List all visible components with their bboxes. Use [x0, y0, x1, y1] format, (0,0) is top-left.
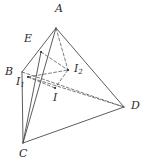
vertex-label-A: A: [55, 3, 63, 14]
edge-I1-I2: [28, 70, 68, 77]
vertex-label-D-text: D: [131, 99, 140, 112]
vertex-label-I1: I1: [16, 76, 25, 89]
point-marker-I1: [27, 76, 29, 78]
vertex-label-B: B: [5, 66, 13, 77]
edge-C-D: [23, 107, 124, 143]
vertex-label-D: D: [131, 100, 140, 111]
dashed-edge-group: [22, 28, 124, 107]
edge-E-C: [23, 52, 41, 143]
vertex-label-E: E: [24, 33, 32, 44]
point-marker-I2: [67, 69, 69, 71]
solid-edge-group: [22, 28, 124, 143]
vertex-label-C: C: [19, 148, 27, 159]
point-marker-I: [54, 87, 56, 89]
vertex-label-E-text: E: [24, 32, 32, 45]
vertex-label-I1-subscript: 1: [20, 81, 24, 89]
vertex-label-I-text: I: [53, 91, 57, 104]
vertex-label-C-text: C: [19, 147, 27, 160]
edge-A-D: [56, 28, 124, 107]
edge-A-C: [23, 28, 56, 143]
geometry-figure: A E B I1 I2 I D C: [0, 0, 147, 167]
vertex-label-I2-subscript: 2: [78, 68, 82, 76]
vertex-label-I: I: [53, 92, 57, 103]
vertex-label-B-text: B: [5, 65, 13, 78]
vertex-label-A-text: A: [55, 2, 63, 15]
vertex-label-I2: I2: [74, 63, 83, 76]
point-marker-E: [40, 51, 42, 53]
edge-I1-D: [28, 77, 124, 107]
